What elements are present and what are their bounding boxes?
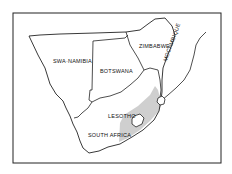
label-lesotho: LESOTHO: [108, 113, 136, 119]
southern-africa-map: [0, 0, 232, 174]
map-frame: [13, 13, 221, 163]
label-botswana: BOTSWANA: [100, 68, 133, 74]
label-south-africa: SOUTH AFRICA: [88, 132, 131, 138]
label-namibia: SWA·NAMIBIA: [53, 58, 92, 64]
